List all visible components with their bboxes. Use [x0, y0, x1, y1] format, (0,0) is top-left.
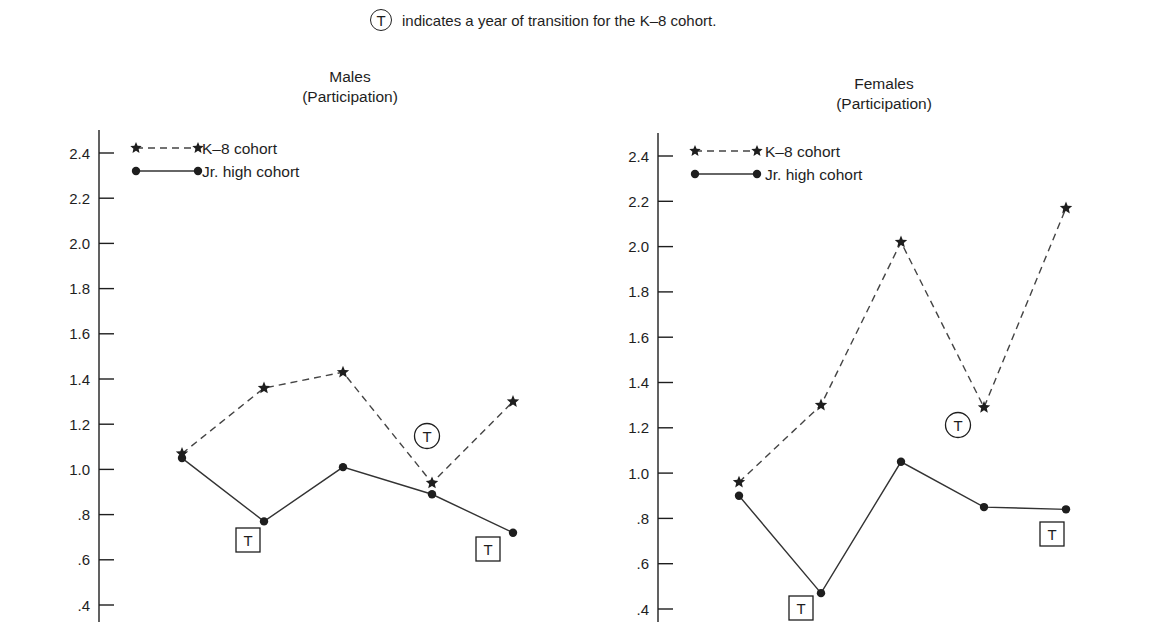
y-tick-label: .4 [77, 597, 90, 614]
females-chart: 2.42.22.01.81.61.41.21.0.8.6.4K–8 cohort… [628, 133, 1072, 622]
y-tick-label: 1.2 [69, 416, 90, 433]
y-tick-label: 2.2 [628, 193, 649, 210]
dot-marker-icon [339, 463, 347, 471]
y-tick-label: .8 [77, 506, 90, 523]
jr-high-series-line [739, 462, 1066, 593]
y-tick-label: 1.0 [69, 461, 90, 478]
y-tick-label: 2.0 [628, 238, 649, 255]
legend-star-icon [130, 142, 141, 153]
svg-text:T: T [422, 428, 431, 445]
dot-marker-icon [1062, 505, 1070, 513]
y-tick-label: 1.8 [69, 280, 90, 297]
dot-marker-icon [753, 170, 761, 178]
y-tick-label: 1.6 [69, 325, 90, 342]
dot-marker-icon [691, 170, 699, 178]
legend-star-icon [689, 145, 700, 156]
svg-text:T: T [483, 541, 492, 558]
svg-text:T: T [953, 417, 962, 434]
dot-marker-icon [509, 528, 517, 536]
y-tick-label: .4 [636, 601, 649, 618]
y-tick-label: 2.4 [69, 145, 90, 162]
dot-marker-icon [260, 517, 268, 525]
y-tick-label: 1.4 [69, 371, 90, 388]
legend: K–8 cohortJr. high cohort [689, 143, 863, 183]
dot-marker-icon [817, 589, 825, 597]
svg-text:T: T [1047, 526, 1056, 543]
y-tick-label: 2.0 [69, 235, 90, 252]
star-marker-icon [337, 366, 349, 378]
y-tick-label: 1.8 [628, 283, 649, 300]
dot-marker-icon [428, 490, 436, 498]
star-marker-icon [426, 477, 438, 489]
k8-series-line [182, 372, 513, 483]
y-tick-label: 1.6 [628, 329, 649, 346]
y-tick-label: .6 [77, 551, 90, 568]
legend-k8-label: K–8 cohort [202, 140, 278, 157]
star-marker-icon [1060, 202, 1072, 214]
dot-marker-icon [132, 167, 140, 175]
svg-text:T: T [796, 600, 805, 617]
star-marker-icon [815, 399, 827, 411]
participation-charts: 2.42.22.01.81.61.41.21.0.8.6.4K–8 cohort… [0, 0, 1161, 622]
dot-marker-icon [980, 503, 988, 511]
y-tick-label: .6 [636, 555, 649, 572]
y-tick-label: 1.2 [628, 419, 649, 436]
y-tick-label: .8 [636, 510, 649, 527]
males-chart: 2.42.22.01.81.61.41.21.0.8.6.4K–8 cohort… [69, 130, 519, 622]
jr-high-series-line [182, 458, 513, 533]
svg-text:T: T [243, 532, 252, 549]
k8-series-line [739, 208, 1066, 482]
y-tick-label: 2.4 [628, 148, 649, 165]
y-tick-label: 1.4 [628, 374, 649, 391]
legend-jr-label: Jr. high cohort [202, 163, 300, 180]
dot-marker-icon [194, 167, 202, 175]
legend: K–8 cohortJr. high cohort [130, 140, 300, 180]
legend-jr-label: Jr. high cohort [765, 166, 863, 183]
star-marker-icon [895, 236, 907, 248]
dot-marker-icon [735, 492, 743, 500]
y-tick-label: 2.2 [69, 190, 90, 207]
dot-marker-icon [897, 458, 905, 466]
legend-star-icon [751, 145, 762, 156]
y-tick-label: 1.0 [628, 465, 649, 482]
star-marker-icon [978, 401, 990, 413]
legend-k8-label: K–8 cohort [765, 143, 841, 160]
